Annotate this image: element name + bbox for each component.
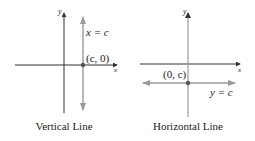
x-axis-label: x: [114, 66, 117, 74]
panel-caption: Vertical Line: [14, 120, 114, 132]
y-axis-label: y: [183, 7, 187, 16]
point-label: (c, 0): [86, 52, 109, 64]
line-equation-label: y = c: [210, 86, 233, 98]
line-equation-label: x = c: [86, 26, 109, 38]
panel-caption: Horizontal Line: [138, 120, 238, 132]
y-axis-label: y: [58, 7, 62, 16]
x-axis-label: x: [238, 66, 241, 74]
point-label: (0, c): [163, 68, 186, 80]
